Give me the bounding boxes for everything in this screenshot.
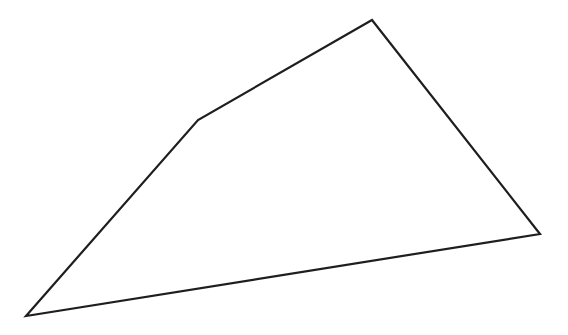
diagram-canvas [0, 0, 568, 335]
quadrilateral-shape [26, 20, 540, 316]
